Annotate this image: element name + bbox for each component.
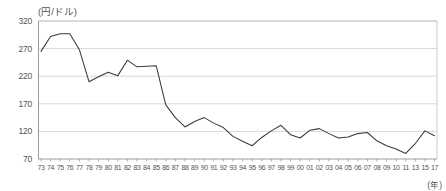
x-axis-tick-label: 74 [47, 164, 54, 171]
x-axis-tick-label: 04 [335, 164, 342, 171]
y-axis-tick-label: 270 [2, 44, 32, 54]
y-axis-tick-label: 170 [2, 99, 32, 109]
y-axis-tick-label: 220 [2, 71, 32, 81]
x-axis-tick-label: 13 [412, 164, 419, 171]
x-axis-tick-label: 98 [277, 164, 284, 171]
x-axis-tick-label: 10 [393, 164, 400, 171]
x-axis-tick-label: 91 [210, 164, 217, 171]
x-axis-tick-label: 75 [57, 164, 64, 171]
x-axis-tick-label: 85 [153, 164, 160, 171]
x-axis-tick-label: 80 [105, 164, 112, 171]
x-axis-tick-label: 95 [249, 164, 256, 171]
x-axis-tick-label: 89 [191, 164, 198, 171]
x-axis-tick-label: 93 [229, 164, 236, 171]
x-axis-tick-label: 09 [383, 164, 390, 171]
x-axis-unit-label: (年) [427, 178, 442, 190]
x-axis-tick-label: 76 [66, 164, 73, 171]
x-axis-tick-label: 17 [431, 164, 438, 171]
x-axis-tick-label: 84 [143, 164, 150, 171]
x-axis-tick-label: 90 [201, 164, 208, 171]
x-axis-tick-label: 77 [76, 164, 83, 171]
x-axis-tick-label: 99 [287, 164, 294, 171]
x-axis-tick-label: 03 [325, 164, 332, 171]
x-axis-tick-label: 79 [95, 164, 102, 171]
x-axis-tick-label: 73 [38, 164, 45, 171]
y-axis-tick-label: 120 [2, 126, 32, 136]
x-axis-tick-label: 15 [421, 164, 428, 171]
y-axis-tick-label: 70 [2, 154, 32, 164]
x-axis-tick-label: 07 [364, 164, 371, 171]
x-axis-tick-label: 96 [258, 164, 265, 171]
x-axis-tick-label: 11 [402, 164, 408, 171]
exchange-rate-line [41, 34, 435, 154]
x-axis-tick-label: 97 [268, 164, 275, 171]
x-axis-tick-label: 88 [181, 164, 188, 171]
x-axis-tick-label: 83 [133, 164, 140, 171]
x-axis-tick-label: 86 [162, 164, 169, 171]
x-axis-tick-label: 06 [354, 164, 361, 171]
x-axis-tick-label: 82 [124, 164, 131, 171]
x-axis-tick-label: 02 [316, 164, 323, 171]
x-axis-tick-label: 92 [220, 164, 227, 171]
y-axis-tick-label: 320 [2, 16, 32, 26]
x-axis-tick-label: 81 [114, 164, 121, 171]
x-axis-tick-label: 01 [306, 164, 313, 171]
line-chart: (円/ドル) 70120170220270320 737475767778798… [0, 0, 446, 191]
x-axis-tick-label: 08 [373, 164, 380, 171]
x-axis-tick-label: 00 [297, 164, 304, 171]
x-axis-tick-label: 05 [345, 164, 352, 171]
x-axis-tick-label: 87 [172, 164, 179, 171]
x-axis-tick-label: 78 [85, 164, 92, 171]
x-axis-tick-label: 94 [239, 164, 246, 171]
chart-plot-area [0, 0, 446, 191]
